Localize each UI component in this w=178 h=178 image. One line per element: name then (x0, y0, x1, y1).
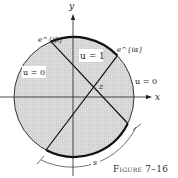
arc-label-s: s (93, 158, 97, 167)
unit-disk-figure: y x e^{iβ} e^{iα} z u = 0 u = 1 u = 0 s (0, 0, 178, 178)
x-axis-arrow-icon (146, 95, 152, 99)
figure-caption: Figure 7–16 (113, 164, 168, 174)
region-label-right: u = 0 (135, 77, 157, 86)
arc-tick-right (133, 124, 141, 130)
point-e-alpha: e^{iα} (117, 46, 143, 54)
region-label-top: u = 1 (80, 51, 105, 61)
point-e-beta: e^{iβ} (38, 36, 63, 44)
x-axis-label: x (155, 92, 160, 102)
arc-tick-left (37, 156, 44, 164)
y-axis-arrow-icon (71, 14, 75, 20)
point-z: z (98, 82, 104, 91)
region-label-left: u = 0 (23, 68, 45, 77)
y-axis-label: y (68, 1, 75, 11)
